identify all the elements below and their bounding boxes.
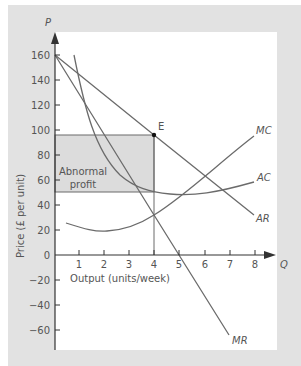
svg-text:20: 20 xyxy=(37,225,50,236)
svg-text:1: 1 xyxy=(76,259,82,270)
mr-label: MR xyxy=(232,335,248,346)
svg-text:−60: −60 xyxy=(29,325,50,336)
svg-text:2: 2 xyxy=(101,259,107,270)
svg-text:5: 5 xyxy=(176,259,182,270)
svg-text:7: 7 xyxy=(227,259,233,270)
ar-label: AR xyxy=(255,213,270,224)
svg-text:−40: −40 xyxy=(29,300,50,311)
svg-text:6: 6 xyxy=(202,259,208,270)
svg-text:3: 3 xyxy=(126,259,132,270)
svg-text:8: 8 xyxy=(252,259,258,270)
point-e-label: E xyxy=(158,121,164,132)
mc-label: MC xyxy=(256,125,272,136)
svg-text:−20: −20 xyxy=(29,275,50,286)
q-axis-symbol: Q xyxy=(280,259,288,270)
svg-text:40: 40 xyxy=(37,200,50,211)
svg-text:160: 160 xyxy=(31,50,50,61)
p-axis-symbol: P xyxy=(45,17,52,28)
y-axis-title: Price (£ per unit) xyxy=(15,174,26,258)
abnormal-profit-label-line2: profit xyxy=(70,179,97,190)
abnormal-profit-label-line1: Abnormal xyxy=(59,166,107,177)
x-axis-title: Output (units/week) xyxy=(70,273,170,284)
svg-text:120: 120 xyxy=(31,100,50,111)
svg-text:4: 4 xyxy=(151,259,157,270)
point-e-marker xyxy=(152,133,156,137)
svg-text:80: 80 xyxy=(37,150,50,161)
chart: Abnormal profit 160 140 120 100 80 60 40… xyxy=(0,0,301,366)
svg-text:100: 100 xyxy=(31,125,50,136)
svg-text:140: 140 xyxy=(31,75,50,86)
ac-label: AC xyxy=(256,172,271,183)
svg-text:60: 60 xyxy=(37,175,50,186)
svg-text:0: 0 xyxy=(44,250,50,261)
